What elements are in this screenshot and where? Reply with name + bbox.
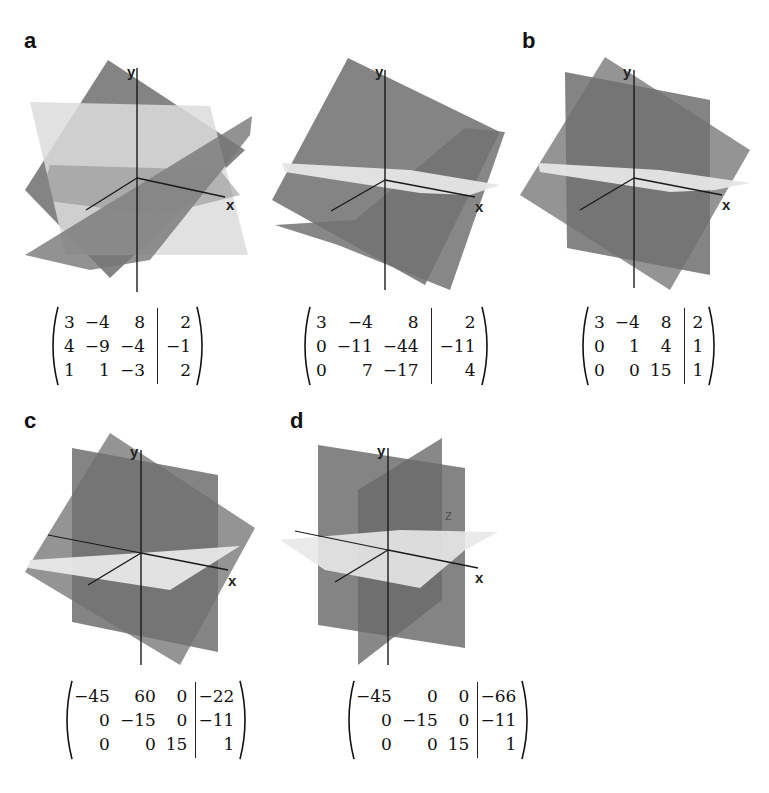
matrix-cell: −1	[166, 336, 191, 356]
coefficient-grid: −45 60 0 0 −15 0 0 0 15	[74, 680, 191, 760]
matrix-cell: 0	[402, 734, 438, 754]
matrix-cell: −15	[402, 710, 438, 730]
matrix-cell: 0	[74, 710, 110, 730]
matrix-cell: 1	[85, 360, 110, 380]
y-axis-label: y	[623, 63, 632, 80]
matrix-cell: 0	[74, 734, 110, 754]
matrix-cell: −15	[120, 710, 156, 730]
rhs-column: −66 −11 1	[480, 680, 520, 760]
matrix-cell: −11	[337, 336, 373, 356]
matrix-cell: 8	[383, 312, 419, 332]
matrix-cell: 0	[356, 710, 392, 730]
plane-plot-d: y x z	[270, 400, 530, 680]
matrix-cell: 2	[440, 312, 476, 332]
matrix-cell: 0	[615, 360, 640, 380]
z-axis-label: z	[445, 507, 452, 523]
coefficient-grid: −45 0 0 0 −15 0 0 0 15	[356, 680, 473, 760]
plane-plot-c: y x	[0, 400, 270, 680]
matrix-cell: 0	[120, 734, 156, 754]
matrix-cell: −4	[337, 312, 373, 332]
matrix-cell: 0	[316, 360, 327, 380]
matrix-cell: 1	[693, 360, 704, 380]
left-paren	[62, 680, 74, 760]
matrix-cell: −66	[480, 686, 516, 706]
matrix-cell: −11	[480, 710, 516, 730]
matrix-cell: −4	[85, 312, 110, 332]
augment-bar	[195, 682, 196, 758]
x-axis-label: x	[228, 572, 237, 589]
matrix-cell: 3	[594, 312, 605, 332]
left-paren	[578, 306, 590, 386]
plane-plot-b: y x	[510, 20, 769, 300]
matrix-cell: 1	[693, 336, 704, 356]
matrix-cell: 0	[448, 686, 470, 706]
matrix-cell: 4	[64, 336, 75, 356]
matrix-cell: 0	[166, 710, 188, 730]
left-paren	[300, 306, 312, 386]
augment-bar	[684, 308, 685, 384]
plane-3	[280, 530, 498, 588]
matrix-c: −45 60 0 0 −15 0 0 0 15 −22 −11 1	[62, 680, 250, 760]
matrix-b: 3 −4 8 0 1 4 0 0 15 2 1 1	[578, 306, 719, 386]
coefficient-grid: 3 −4 8 0 1 4 0 0 15	[590, 306, 676, 386]
y-axis-label: y	[377, 442, 386, 459]
right-paren	[520, 680, 532, 760]
x-axis-label: x	[722, 196, 731, 213]
matrix-cell: 60	[120, 686, 156, 706]
matrix-cell: 0	[448, 710, 470, 730]
left-paren	[48, 306, 60, 386]
matrix-a2: 3 −4 8 0 −11 −44 0 7 −17 2 −11 4	[300, 306, 492, 386]
coefficient-grid: 3 −4 8 4 −9 −4 1 1 −3	[60, 306, 149, 386]
x-axis-label: x	[475, 198, 484, 215]
matrix-cell: 15	[650, 360, 672, 380]
matrix-cell: 1	[480, 734, 516, 754]
matrix-cell: 15	[448, 734, 470, 754]
matrix-cell: −11	[440, 336, 476, 356]
matrix-cell: 3	[64, 312, 75, 332]
rhs-column: 2 −1 2	[166, 306, 195, 386]
right-paren	[707, 306, 719, 386]
matrix-cell: 2	[166, 312, 191, 332]
right-paren	[238, 680, 250, 760]
rhs-column: 2 −11 4	[440, 306, 480, 386]
y-axis-label: y	[375, 63, 384, 80]
matrix-cell: 2	[693, 312, 704, 332]
matrix-cell: 0	[594, 336, 605, 356]
matrix-cell: −9	[85, 336, 110, 356]
matrix-cell: −4	[120, 336, 145, 356]
y-axis-label: y	[127, 63, 136, 80]
plane-plot-a2: y x	[260, 20, 510, 300]
left-paren	[344, 680, 356, 760]
matrix-a1: 3 −4 8 4 −9 −4 1 1 −3 2 −1 2	[48, 306, 207, 386]
matrix-cell: 1	[198, 734, 234, 754]
matrix-cell: 0	[356, 734, 392, 754]
y-axis-label: y	[130, 443, 139, 460]
matrix-cell: 8	[120, 312, 145, 332]
matrix-cell: −44	[383, 336, 419, 356]
x-axis-label: x	[475, 569, 484, 586]
matrix-cell: 4	[440, 360, 476, 380]
augment-bar	[431, 308, 432, 384]
matrix-cell: 3	[316, 312, 327, 332]
plane-plot-a1: y x	[0, 20, 260, 300]
matrix-cell: 8	[650, 312, 672, 332]
x-axis-label: x	[226, 196, 235, 213]
matrix-cell: 4	[650, 336, 672, 356]
matrix-cell: 1	[64, 360, 75, 380]
coefficient-grid: 3 −4 8 0 −11 −44 0 7 −17	[312, 306, 423, 386]
matrix-cell: −22	[198, 686, 234, 706]
matrix-cell: 2	[166, 360, 191, 380]
matrix-cell: −4	[615, 312, 640, 332]
right-paren	[480, 306, 492, 386]
matrix-cell: −3	[120, 360, 145, 380]
matrix-cell: 0	[166, 686, 188, 706]
matrix-cell: −11	[198, 710, 234, 730]
rhs-column: 2 1 1	[693, 306, 708, 386]
right-paren	[195, 306, 207, 386]
augment-bar	[477, 682, 478, 758]
matrix-cell: 7	[337, 360, 373, 380]
matrix-cell: 1	[615, 336, 640, 356]
matrix-cell: −17	[383, 360, 419, 380]
rhs-column: −22 −11 1	[198, 680, 238, 760]
matrix-cell: −45	[74, 686, 110, 706]
